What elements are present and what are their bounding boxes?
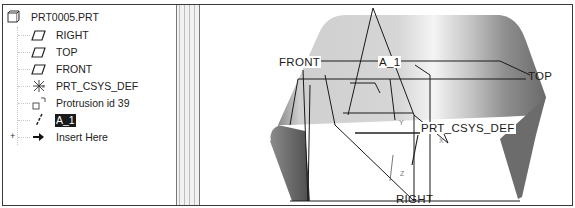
coordinate-system-icon: x [31,79,47,93]
csys-z-label: Z [399,168,406,180]
datum-plane-icon [31,28,47,42]
tree-item-label: Protrusion id 39 [55,97,131,110]
tree-item-label: TOP [55,46,78,59]
tree-item-label: Insert Here [55,131,109,144]
part-icon [6,10,22,24]
tree-item-front[interactable]: FRONT [31,61,93,77]
tree-item-top[interactable]: TOP [31,44,78,60]
tree-item-label: A_1 [55,114,76,127]
datum-plane-icon [31,45,47,59]
model-tree[interactable]: PRT0005.PRT RIGHT TOP FRONT x [3,5,175,205]
graphics-viewport[interactable]: FRONT A_1 TOP PRT_CSYS_DEF RIGHT Y X Z [200,5,572,205]
tree-item-label: PRT_CSYS_DEF [55,80,139,93]
csys-x-label: X [438,135,445,147]
tree-item-axis-a1[interactable]: A_1 [31,112,76,128]
tree-item-protrusion[interactable]: Protrusion id 39 [31,95,131,111]
datum-plane-icon [31,62,47,76]
tree-item-right[interactable]: RIGHT [31,27,90,43]
datum-label-right[interactable]: RIGHT [395,193,434,205]
expand-toggle[interactable]: + [10,131,15,141]
part-model-graphic [200,5,572,205]
panel-splitter[interactable] [177,5,199,205]
datum-label-csys[interactable]: PRT_CSYS_DEF [420,122,516,134]
datum-label-top[interactable]: TOP [527,70,553,82]
tree-item-insert-here[interactable]: Insert Here [31,129,109,145]
tree-item-label: FRONT [55,63,93,76]
tree-item-csys[interactable]: x PRT_CSYS_DEF [31,78,139,94]
insert-arrow-icon [31,130,47,144]
csys-y-label: Y [398,117,405,129]
datum-label-axis[interactable]: A_1 [378,56,401,68]
tree-root-part[interactable]: PRT0005.PRT [6,9,100,25]
datum-axis-icon [31,113,47,127]
tree-item-label: RIGHT [55,29,90,42]
datum-label-front[interactable]: FRONT [278,56,321,68]
tree-root-label: PRT0005.PRT [30,11,100,24]
protrusion-icon [31,96,47,110]
application-window: PRT0005.PRT RIGHT TOP FRONT x [2,4,573,206]
